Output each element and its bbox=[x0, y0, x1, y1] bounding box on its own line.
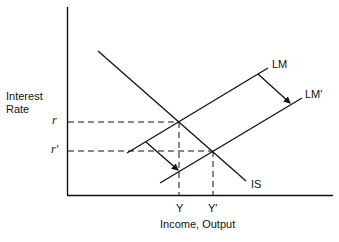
lm-shifted-label-tick bbox=[292, 98, 302, 104]
lm-curve bbox=[127, 74, 258, 153]
is-curve bbox=[98, 51, 246, 181]
shift-arrow-upper bbox=[258, 74, 290, 103]
tick-label-r: r bbox=[52, 114, 57, 128]
is-curve-label: IS bbox=[251, 178, 261, 191]
x-axis-label: Income, Output bbox=[160, 218, 235, 231]
tick-label-r-prime: r′ bbox=[51, 143, 58, 157]
tick-label-y-prime: Y′ bbox=[208, 202, 217, 215]
lm-shifted-curve-label: LM′ bbox=[305, 88, 322, 101]
lm-label-tick bbox=[258, 68, 268, 74]
is-lm-diagram bbox=[0, 0, 339, 242]
y-axis-label: Interest Rate bbox=[6, 90, 43, 115]
shift-arrow-lower bbox=[146, 142, 178, 170]
y-axis-label-line2: Rate bbox=[6, 103, 43, 116]
tick-label-y: Y bbox=[176, 202, 183, 215]
lm-curve-label: LM bbox=[272, 58, 287, 71]
lm-shifted-curve bbox=[160, 104, 292, 183]
y-axis-label-line1: Interest bbox=[6, 90, 43, 103]
